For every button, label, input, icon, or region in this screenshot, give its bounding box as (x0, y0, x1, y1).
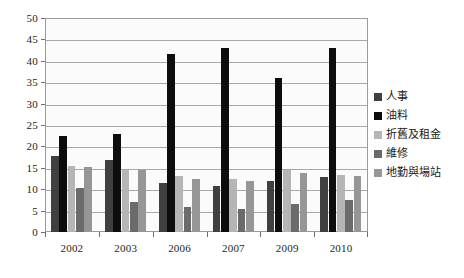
chart-legend: 人事油料折舊及租金維修地勤與場站 (374, 87, 462, 182)
bar-group (51, 18, 92, 232)
bar (159, 183, 167, 232)
bar (275, 78, 283, 232)
x-axis-tick-mark (45, 232, 46, 237)
bar (51, 156, 59, 232)
bar (105, 160, 113, 232)
x-axis-tick-label: 2007 (222, 242, 245, 254)
y-axis-tick-label: 40 (27, 55, 38, 66)
x-axis-tick-label: 2006 (168, 242, 191, 254)
bars-layer (45, 18, 368, 232)
legend-item-label: 地勤與場站 (386, 167, 441, 178)
legend-item[interactable]: 地勤與場站 (374, 163, 462, 182)
y-axis: 05101520253035404550 (0, 0, 45, 234)
x-axis-tick-mark (153, 232, 154, 237)
y-axis-tick-label: 20 (27, 141, 38, 152)
bar (345, 200, 353, 232)
bar (138, 170, 146, 232)
legend-item-label: 維修 (386, 148, 408, 159)
bar (213, 186, 221, 232)
bar-group (105, 18, 146, 232)
bar (84, 167, 92, 232)
legend-item[interactable]: 油料 (374, 106, 462, 125)
bar (167, 54, 175, 232)
legend-swatch-icon (374, 131, 382, 139)
x-axis-tick-mark (314, 232, 315, 237)
x-axis-tick-mark (367, 232, 368, 237)
y-axis-tick-label: 0 (32, 227, 38, 238)
bar (122, 170, 130, 232)
bar (192, 179, 200, 232)
x-axis: 200220032006200720092010 (45, 232, 368, 262)
bar (283, 170, 291, 232)
y-axis-tick-label: 50 (27, 13, 38, 24)
y-axis-tick-label: 15 (27, 162, 38, 173)
legend-item[interactable]: 維修 (374, 144, 462, 163)
bar (113, 134, 121, 232)
bar (238, 209, 246, 232)
bar-group (213, 18, 254, 232)
y-axis-tick-label: 30 (27, 98, 38, 109)
x-axis-tick-mark (207, 232, 208, 237)
x-axis-tick-label: 2009 (276, 242, 299, 254)
bar-chart: 05101520253035404550 2002200320062007200… (0, 0, 464, 278)
bar (76, 188, 84, 232)
bar (300, 173, 308, 232)
y-axis-tick-label: 25 (27, 120, 38, 131)
y-axis-tick-label: 45 (27, 34, 38, 45)
y-axis-tick-label: 35 (27, 77, 38, 88)
y-axis-tick-label: 10 (27, 184, 38, 195)
bar-group (159, 18, 200, 232)
legend-swatch-icon (374, 169, 382, 177)
x-axis-tick-mark (260, 232, 261, 237)
y-axis-tick-label: 5 (32, 205, 38, 216)
legend-swatch-icon (374, 150, 382, 158)
bar (130, 202, 138, 232)
legend-item[interactable]: 人事 (374, 87, 462, 106)
bar (267, 181, 275, 232)
bar (68, 166, 76, 232)
legend-swatch-icon (374, 112, 382, 120)
legend-item[interactable]: 折舊及租金 (374, 125, 462, 144)
bar-group (320, 18, 361, 232)
legend-item-label: 油料 (386, 110, 408, 121)
bar (291, 204, 299, 232)
bar (329, 48, 337, 232)
legend-item-label: 人事 (386, 91, 408, 102)
x-axis-tick-mark (99, 232, 100, 237)
x-axis-tick-label: 2002 (61, 242, 84, 254)
x-axis-tick-label: 2003 (114, 242, 137, 254)
bar (320, 177, 328, 232)
bar (354, 176, 362, 232)
bar (221, 48, 229, 232)
x-axis-tick-label: 2010 (330, 242, 353, 254)
bar (229, 179, 237, 233)
bar (59, 136, 67, 232)
legend-swatch-icon (374, 93, 382, 101)
bar (337, 175, 345, 232)
bar (175, 176, 183, 232)
bar (184, 207, 192, 232)
bar-group (267, 18, 308, 232)
legend-item-label: 折舊及租金 (386, 129, 441, 140)
bar (246, 181, 254, 232)
